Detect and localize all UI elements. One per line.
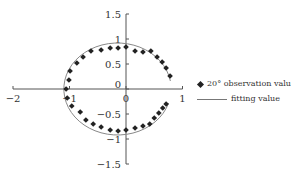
x-tick-label: −2 — [6, 93, 21, 104]
observation-point — [90, 121, 96, 127]
y-tick-label: −0.5 — [97, 109, 121, 120]
observation-point — [140, 123, 146, 129]
legend-fitting: fitting value — [197, 94, 280, 103]
observation-point — [154, 54, 160, 60]
observation-point — [77, 109, 83, 115]
line-marker-icon — [197, 99, 227, 100]
observation-point — [98, 47, 104, 53]
observation-point — [69, 103, 75, 109]
diamond-marker-icon — [197, 80, 204, 87]
observation-point — [159, 59, 165, 65]
observation-point — [132, 48, 138, 54]
observation-point — [151, 115, 157, 121]
legend-fitting-label: fitting value — [231, 94, 280, 103]
observation-point — [83, 117, 89, 123]
observation-point — [115, 128, 121, 134]
observation-point — [115, 45, 121, 51]
observation-point — [66, 77, 72, 83]
observation-point — [132, 125, 138, 131]
observation-point — [163, 101, 169, 107]
legend-observation: 20° observation value — [198, 79, 291, 88]
observation-point — [98, 124, 104, 130]
observation-point — [123, 44, 129, 50]
observation-point — [67, 68, 73, 74]
y-tick-label: 1.5 — [105, 9, 121, 20]
chart-canvas: −2−1011.510.5−0.5−1−1.50 — [0, 0, 291, 176]
observation-point — [147, 121, 153, 127]
observation-point — [123, 127, 129, 133]
observation-point — [107, 127, 113, 133]
observation-point — [156, 110, 162, 116]
observation-point — [107, 45, 113, 51]
origin-label: 0 — [115, 79, 121, 90]
observation-point — [160, 105, 166, 111]
y-tick-label: −1 — [106, 134, 121, 145]
observation-point — [88, 48, 94, 54]
y-tick-label: −1.5 — [97, 159, 121, 170]
observation-point — [140, 49, 146, 55]
x-tick-label: 0 — [123, 93, 129, 104]
observation-point — [148, 48, 154, 54]
legend-observation-label: 20° observation value — [207, 79, 291, 88]
x-tick-label: 1 — [179, 93, 185, 104]
y-tick-label: 0.5 — [105, 59, 121, 70]
